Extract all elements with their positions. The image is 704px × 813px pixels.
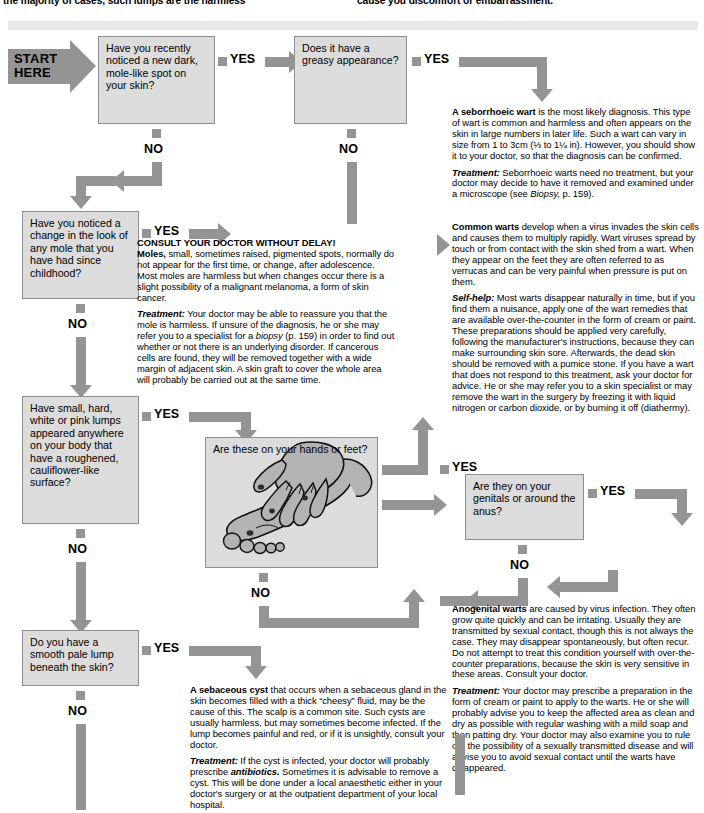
- start-line-2: HERE: [14, 65, 51, 80]
- yes-label-q2: YES: [424, 52, 449, 66]
- question-text-q6: Are they on your genitals or around the …: [473, 480, 575, 517]
- intro-text-right: cause you discomfort or embarrassment.: [357, 0, 701, 8]
- question-box-q5[interactable]: Are these on your hands or feet?: [205, 437, 378, 568]
- advice-sebaceous-ref: antibiotics.: [231, 766, 280, 777]
- connector-q2-no-down: [347, 162, 357, 224]
- connector-q6-yes-down: [677, 489, 687, 515]
- connector-q1-yes-bar: [265, 57, 289, 67]
- no-tick-q5: [259, 573, 268, 582]
- advice-sebaceous-treatment-label: Treatment:: [190, 755, 238, 766]
- connector-q5-no-arrowhead: [403, 589, 425, 602]
- question-box-q6[interactable]: Are they on your genitals or around the …: [465, 474, 584, 540]
- question-box-q4[interactable]: Have small, hard, white or pink lumps ap…: [22, 396, 139, 524]
- no-label-q5: NO: [251, 586, 270, 600]
- connector-q5-yes-up: [418, 430, 428, 475]
- advice-common-selfhelp-body: Most warts disappear naturally in time, …: [452, 292, 696, 412]
- intro-text-left: the majority of cases, such lumps are th…: [3, 0, 349, 8]
- yes-label-q6: YES: [600, 484, 625, 498]
- start-here-marker: START HERE: [8, 40, 96, 93]
- question-text-q4: Have small, hard, white or pink lumps ap…: [30, 402, 124, 488]
- question-box-q7[interactable]: Do you have a smooth pale lump beneath t…: [22, 630, 139, 686]
- no-tick-q3: [76, 304, 85, 313]
- advice-moles-ref: biopsy: [256, 330, 283, 341]
- no-label-q1: NO: [144, 142, 163, 156]
- connector-q7-yes-arrowhead: [245, 666, 267, 679]
- yes-tick-q5: [440, 465, 449, 474]
- advice-moles-treatment-label: Treatment:: [137, 308, 185, 319]
- connector-anogenital-arrowhead: [547, 576, 560, 598]
- no-label-q3: NO: [68, 317, 87, 331]
- connector-q1-no-left: [124, 176, 162, 186]
- yes-label-q5: YES: [452, 460, 477, 474]
- advice-anogenital-lead: Anogenital warts: [452, 603, 527, 614]
- hand-on-foot-illustration: [206, 438, 378, 568]
- yes-label-q4: YES: [154, 407, 179, 421]
- no-tick-q6: [518, 545, 527, 554]
- advice-moles: CONSULT YOUR DOCTOR WITHOUT DELAY! Moles…: [137, 238, 395, 386]
- connector-bottom-right-rail: [455, 735, 465, 795]
- yes-tick-q6: [588, 489, 597, 498]
- advice-seborrhoeic-tail: p. 159).: [560, 188, 594, 199]
- advice-seborrhoeic-lead: A seborrhoeic wart: [452, 106, 536, 117]
- yes-label-q3: YES: [154, 224, 179, 238]
- yes-tick-q1: [218, 57, 227, 66]
- advice-seborrhoeic-treatment-label: Treatment:: [452, 167, 500, 178]
- connector-q2-yes-right: [459, 57, 547, 67]
- no-tick-q4: [76, 529, 85, 538]
- yes-tick-q4: [142, 412, 151, 421]
- question-box-q1[interactable]: Have you recently noticed a new dark, mo…: [98, 36, 215, 124]
- advice-anogenital-body: are caused by virus infection. They ofte…: [452, 603, 695, 679]
- yes-tick-q2: [412, 57, 421, 66]
- advice-anogenital-treatment-body: Your doctor may prescribe a preparation …: [452, 685, 694, 772]
- advice-seborrhoeic-wart: A seborrhoeic wart is the most likely di…: [452, 107, 700, 200]
- advice-moles-shout: CONSULT YOUR DOCTOR WITHOUT DELAY!: [137, 237, 335, 248]
- advice-seborrhoeic-ref: Biopsy,: [530, 188, 560, 199]
- no-tick-q2: [347, 129, 356, 138]
- connector-q4-yes-down: [241, 412, 251, 432]
- yes-label-q7: YES: [154, 641, 179, 655]
- question-text-q7: Do you have a smooth pale lump beneath t…: [30, 636, 114, 673]
- connector-into-common-warts: [437, 234, 450, 256]
- no-label-q6: NO: [510, 558, 529, 572]
- connector-q4-no-down: [76, 562, 86, 622]
- question-box-q3[interactable]: Have you noticed a change in the look of…: [22, 211, 139, 299]
- advice-common-selfhelp-label: Self-help:: [452, 292, 494, 303]
- question-text-q2: Does it have a greasy appearance?: [302, 42, 399, 66]
- no-tick-q1: [152, 129, 161, 138]
- connector-q5-no-right: [259, 618, 419, 628]
- connector-q1-no-drop: [76, 176, 86, 198]
- connector-q5-yes-arrowhead: [412, 417, 434, 430]
- no-label-q2: NO: [339, 142, 358, 156]
- advice-sebaceous-lead: A sebaceous cyst: [190, 684, 268, 695]
- connector-q7-yes-down: [251, 646, 261, 668]
- connector-into-q6-arrowhead: [434, 494, 447, 516]
- question-box-q2[interactable]: Does it have a greasy appearance?: [294, 36, 407, 124]
- connector-into-q6-bar: [382, 500, 434, 510]
- advice-sebaceous-cyst: A sebaceous cyst that occurs when a seba…: [190, 685, 450, 811]
- connector-q1-no-into-q3: [70, 196, 92, 209]
- header-rule: [8, 21, 698, 30]
- advice-moles-lead: Moles,: [137, 248, 166, 259]
- connector-q5-no-up: [409, 600, 419, 628]
- connector-q3-no-down: [76, 337, 86, 387]
- flowchart-page: the majority of cases, such lumps are th…: [0, 0, 704, 813]
- yes-label-q1: YES: [230, 52, 255, 66]
- question-text-q1: Have you recently noticed a new dark, mo…: [106, 42, 198, 91]
- no-label-q7: NO: [68, 704, 87, 718]
- no-label-q4: NO: [68, 542, 87, 556]
- advice-anogenital-treatment-label: Treatment:: [452, 685, 500, 696]
- connector-q2-yes-down: [537, 57, 547, 91]
- connector-q7-no-down: [76, 724, 86, 810]
- connector-anogenital-left: [560, 582, 618, 592]
- advice-anogenital-warts: Anogenital warts are caused by virus inf…: [452, 604, 700, 774]
- connector-q6-yes-arrowhead: [671, 513, 693, 526]
- advice-moles-body: small, sometimes raised, pigmented spots…: [137, 248, 394, 303]
- connector-q2-yes-arrowhead: [531, 89, 553, 102]
- advice-common-warts: Common warts develop when a virus invade…: [452, 222, 700, 413]
- question-text-q5: Are these on your hands or feet?: [213, 443, 367, 455]
- question-text-q3: Have you noticed a change in the look of…: [30, 217, 128, 279]
- yes-tick-q7: [142, 646, 151, 655]
- no-tick-q7: [76, 691, 85, 700]
- advice-common-lead: Common warts: [452, 221, 519, 232]
